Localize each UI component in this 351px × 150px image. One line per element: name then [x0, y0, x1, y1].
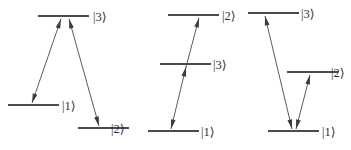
state-label-1: |1⟩ — [62, 99, 76, 113]
arrowhead-down-level1 — [32, 93, 37, 103]
coupling-line-1-3 — [32, 19, 61, 103]
energy-level-diagram-canvas: |3⟩ |1⟩ |2⟩ |2⟩ |3⟩ |1⟩ — [0, 0, 351, 150]
arrowhead-up-level3 — [265, 16, 270, 26]
state-label-3: |3⟩ — [93, 10, 107, 24]
diagram-ladder-configuration: |2⟩ |3⟩ |1⟩ — [148, 9, 236, 139]
arrowhead-up-level2 — [305, 75, 310, 85]
state-label-1: |1⟩ — [322, 125, 336, 139]
diagram-lambda-configuration: |3⟩ |1⟩ |2⟩ — [8, 10, 129, 136]
arrowhead-up-level3 — [56, 19, 61, 29]
arrowhead-up-level3 — [181, 67, 186, 77]
arrowhead-down-level1 — [171, 119, 176, 129]
arrowhead-down-level2 — [94, 116, 99, 126]
arrowhead-up-level2 — [194, 18, 199, 28]
arrowhead-up-level3-second — [69, 19, 74, 29]
state-label-2: |2⟩ — [222, 9, 236, 23]
state-label-3: |3⟩ — [301, 7, 315, 21]
energy-level-figure: |3⟩ |1⟩ |2⟩ |2⟩ |3⟩ |1⟩ — [0, 0, 351, 150]
state-label-2: |2⟩ — [111, 122, 125, 136]
state-label-3: |3⟩ — [213, 58, 227, 72]
coupling-line-1-3 — [171, 67, 186, 129]
arrowhead-down-level1 — [287, 119, 292, 129]
state-label-1: |1⟩ — [201, 125, 215, 139]
diagram-v-configuration: |3⟩ |2⟩ |1⟩ — [248, 7, 345, 139]
arrowhead-down-level1-second — [296, 119, 301, 129]
state-label-2: |2⟩ — [331, 66, 345, 80]
